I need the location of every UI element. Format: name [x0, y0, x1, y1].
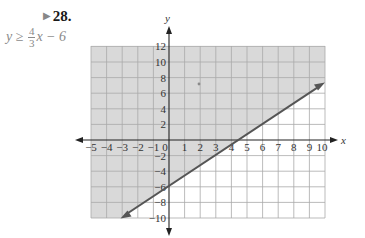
svg-text:−5: −5 [85, 141, 97, 153]
svg-text:−8: −8 [154, 196, 166, 208]
svg-text:4: 4 [161, 103, 167, 115]
svg-text:3: 3 [213, 141, 219, 153]
svg-text:8: 8 [161, 72, 167, 84]
svg-text:1: 1 [182, 141, 188, 153]
svg-text:5: 5 [244, 141, 250, 153]
x-axis-right-arrow-icon [330, 137, 338, 143]
y-axis-label: y [164, 12, 170, 24]
svg-text:10: 10 [155, 56, 167, 68]
x-axis-label: x [340, 134, 346, 146]
svg-text:7: 7 [275, 141, 281, 153]
svg-text:−4: −4 [154, 165, 166, 177]
svg-text:−2: −2 [154, 150, 166, 162]
svg-text:−3: −3 [116, 141, 128, 153]
svg-text:10: 10 [317, 141, 329, 153]
svg-text:6: 6 [260, 141, 266, 153]
x-axis-left-arrow-icon [75, 137, 83, 143]
coordinate-graph: y x −5 −4 −3 −2 −1 0 1 2 3 4 5 6 7 8 9 1… [0, 0, 365, 238]
svg-text:−2: −2 [132, 141, 144, 153]
svg-text:2: 2 [197, 141, 203, 153]
stray-dot [198, 83, 201, 86]
svg-text:8: 8 [291, 141, 297, 153]
svg-text:−4: −4 [101, 141, 113, 153]
svg-text:9: 9 [307, 141, 313, 153]
svg-text:6: 6 [161, 87, 167, 99]
svg-text:12: 12 [155, 40, 166, 52]
y-axis-up-arrow-icon [166, 26, 172, 34]
svg-text:2: 2 [161, 118, 167, 130]
y-axis-down-arrow-icon [166, 228, 172, 236]
shaded-region [91, 46, 325, 218]
svg-text:−10: −10 [149, 212, 167, 224]
